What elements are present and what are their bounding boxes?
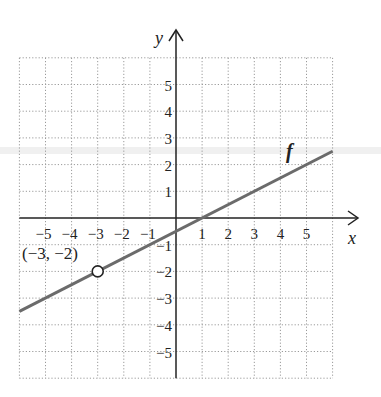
graph-figure: −5−4−3−2−11234554321−1−2−3−4−5 (−3, −2) … bbox=[0, 0, 381, 397]
x-tick-label: 2 bbox=[224, 226, 232, 242]
x-tick-label: 5 bbox=[303, 226, 311, 242]
y-tick-label: 5 bbox=[165, 78, 173, 94]
y-tick-label: −3 bbox=[156, 291, 172, 307]
y-tick-label: 1 bbox=[165, 184, 173, 200]
y-tick-label: −2 bbox=[156, 264, 172, 280]
point-label: (−3, −2) bbox=[22, 244, 78, 263]
x-tick-label: 1 bbox=[198, 226, 206, 242]
open-circle-marker bbox=[92, 266, 103, 277]
x-tick-label: 3 bbox=[251, 226, 259, 242]
y-tick-label: −5 bbox=[156, 345, 172, 361]
scan-artifact-band bbox=[0, 147, 381, 154]
x-axis-label: x bbox=[347, 228, 356, 248]
y-tick-label: 3 bbox=[165, 131, 173, 147]
x-tick-label: −5 bbox=[36, 226, 52, 242]
y-axis-label: y bbox=[153, 28, 163, 48]
y-tick-label: 4 bbox=[165, 104, 173, 120]
x-tick-label: −4 bbox=[62, 226, 78, 242]
x-tick-label: −2 bbox=[114, 226, 130, 242]
x-tick-label: 4 bbox=[277, 226, 285, 242]
x-tick-label: −1 bbox=[140, 226, 156, 242]
y-tick-label: 2 bbox=[165, 158, 173, 174]
tick-labels: −5−4−3−2−11234554321−1−2−3−4−5 bbox=[36, 78, 311, 361]
x-tick-label: −3 bbox=[88, 226, 104, 242]
axes bbox=[19, 30, 358, 378]
y-tick-label: −4 bbox=[156, 318, 172, 334]
